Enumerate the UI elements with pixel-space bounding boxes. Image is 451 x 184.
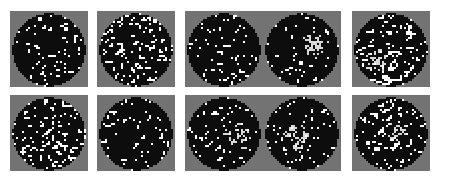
lattice-canvas-5 — [352, 11, 430, 87]
lattice-canvas-6 — [10, 95, 88, 171]
lattice-canvas-2 — [97, 11, 175, 87]
lattice-canvas-7 — [97, 95, 175, 171]
lattice-canvas-9 — [263, 95, 341, 171]
lattice-canvas-8 — [185, 95, 263, 171]
lattice-canvas-4 — [263, 11, 341, 87]
lattice-panel-5 — [352, 11, 430, 87]
figure-root — [0, 0, 451, 184]
lattice-panel-2 — [97, 11, 175, 87]
lattice-canvas-1 — [10, 11, 88, 87]
lattice-panel-8 — [185, 95, 263, 171]
lattice-panel-6 — [10, 95, 88, 171]
panel-grid — [0, 0, 451, 184]
lattice-panel-3 — [185, 11, 263, 87]
lattice-canvas-3 — [185, 11, 263, 87]
lattice-panel-9 — [263, 95, 341, 171]
lattice-panel-7 — [97, 95, 175, 171]
lattice-panel-1 — [10, 11, 88, 87]
lattice-panel-4 — [263, 11, 341, 87]
lattice-canvas-10 — [352, 95, 430, 171]
lattice-panel-10 — [352, 95, 430, 171]
